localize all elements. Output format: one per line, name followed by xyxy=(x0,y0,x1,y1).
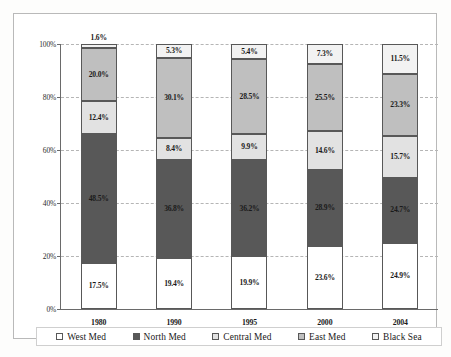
bar-segment-east-med-1995[interactable]: 28.5% xyxy=(231,59,267,135)
bar-segment-west-med-2000[interactable]: 23.6% xyxy=(307,246,343,309)
bar-segment-black-sea-2000[interactable]: 7.3% xyxy=(307,44,343,63)
legend-item-north-med[interactable]: North Med xyxy=(133,332,186,342)
bar-segment-east-med-2004[interactable]: 23.3% xyxy=(382,74,418,136)
legend-swatch-west-med xyxy=(56,333,63,340)
bar-segment-value-label: 8.4% xyxy=(166,145,182,153)
bar-segment-value-label: 5.4% xyxy=(241,48,257,56)
x-axis-tick-label-1990: 1990 xyxy=(166,318,181,327)
legend-item-west-med[interactable]: West Med xyxy=(56,332,106,342)
bar-segment-black-sea-1990[interactable]: 5.3% xyxy=(156,44,192,58)
plot-area: 0%20%40%60%80%100% 17.5%48.5%12.4%20.0%1… xyxy=(60,44,438,310)
bar-segment-value-label: 36.8% xyxy=(164,205,184,213)
bar-segment-central-med-1995[interactable]: 9.9% xyxy=(231,134,267,160)
bar-stack-2000[interactable]: 23.6%28.9%14.6%25.5%7.3% xyxy=(307,44,343,309)
legend-item-label: West Med xyxy=(67,332,106,342)
bar-segment-value-label: 15.7% xyxy=(390,153,410,161)
x-axis-tick-label-1995: 1995 xyxy=(242,318,257,327)
bar-segment-west-med-1980[interactable]: 17.5% xyxy=(81,263,117,309)
bar-stack-1980[interactable]: 17.5%48.5%12.4%20.0%1.6% xyxy=(81,44,117,309)
bar-segment-value-label: 20.0% xyxy=(89,71,109,79)
bar-segment-north-med-1995[interactable]: 36.2% xyxy=(231,160,267,256)
chart-legend: West MedNorth MedCentral MedEast MedBlac… xyxy=(36,327,442,346)
legend-item-label: East Med xyxy=(309,332,345,342)
bar-segment-value-label: 9.9% xyxy=(241,143,257,151)
bar-stack-2004[interactable]: 24.9%24.7%15.7%23.3%11.5% xyxy=(382,44,418,309)
legend-item-label: Black Sea xyxy=(383,332,422,342)
bar-segment-west-med-2004[interactable]: 24.9% xyxy=(382,243,418,309)
bar-segment-central-med-2004[interactable]: 15.7% xyxy=(382,136,418,178)
bar-segment-north-med-1990[interactable]: 36.8% xyxy=(156,160,192,258)
bar-segment-black-sea-1980[interactable]: 1.6% xyxy=(81,44,117,48)
bar-segment-value-label: 23.3% xyxy=(390,101,410,109)
legend-item-label: Central Med xyxy=(223,332,271,342)
bar-segment-east-med-1980[interactable]: 20.0% xyxy=(81,48,117,101)
bar-segment-central-med-1990[interactable]: 8.4% xyxy=(156,138,192,160)
bar-stack-1995[interactable]: 19.9%36.2%9.9%28.5%5.4% xyxy=(231,44,267,309)
bar-segment-value-label: 25.5% xyxy=(315,94,335,102)
bar-segment-value-label: 24.9% xyxy=(390,272,410,280)
bar-segment-value-label: 1.6% xyxy=(91,34,107,42)
bars-layer: 17.5%48.5%12.4%20.0%1.6%198019.4%36.8%8.… xyxy=(61,44,438,309)
bar-segment-value-label: 48.5% xyxy=(89,195,109,203)
bar-segment-value-label: 19.4% xyxy=(164,280,184,288)
x-axis-tick-label-2000: 2000 xyxy=(317,318,332,327)
bar-segment-black-sea-1995[interactable]: 5.4% xyxy=(231,44,267,58)
bar-group-1995: 19.9%36.2%9.9%28.5%5.4%1995 xyxy=(212,44,287,309)
bar-stack-1990[interactable]: 19.4%36.8%8.4%30.1%5.3% xyxy=(156,44,192,309)
bar-group-2000: 23.6%28.9%14.6%25.5%7.3%2000 xyxy=(287,44,362,309)
legend-item-label: North Med xyxy=(144,332,186,342)
bar-group-1980: 17.5%48.5%12.4%20.0%1.6%1980 xyxy=(61,44,136,309)
bar-segment-central-med-2000[interactable]: 14.6% xyxy=(307,131,343,170)
bar-segment-value-label: 30.1% xyxy=(164,94,184,102)
y-axis-tick-label: 100% xyxy=(39,40,56,49)
x-axis-tick-label-1980: 1980 xyxy=(91,318,106,327)
legend-item-black-sea[interactable]: Black Sea xyxy=(372,332,422,342)
figure-frame: 0%20%40%60%80%100% 17.5%48.5%12.4%20.0%1… xyxy=(13,13,437,339)
y-axis-tick-label: 0% xyxy=(46,305,56,314)
bar-segment-value-label: 7.3% xyxy=(317,50,333,58)
bar-segment-east-med-1990[interactable]: 30.1% xyxy=(156,58,192,138)
bar-segment-value-label: 12.4% xyxy=(89,114,109,122)
bar-segment-north-med-2004[interactable]: 24.7% xyxy=(382,178,418,243)
y-axis-tick-label: 80% xyxy=(43,93,56,102)
bar-segment-value-label: 28.9% xyxy=(315,204,335,212)
legend-swatch-east-med xyxy=(298,333,305,340)
bar-segment-value-label: 17.5% xyxy=(89,282,109,290)
bar-segment-value-label: 36.2% xyxy=(240,205,260,213)
bar-group-2004: 24.9%24.7%15.7%23.3%11.5%2004 xyxy=(363,44,438,309)
bar-segment-value-label: 24.7% xyxy=(390,206,410,214)
x-axis-tick-label-2004: 2004 xyxy=(393,318,408,327)
bar-segment-value-label: 23.6% xyxy=(315,274,335,282)
bar-segment-black-sea-2004[interactable]: 11.5% xyxy=(382,44,418,74)
legend-swatch-central-med xyxy=(212,333,219,340)
bar-segment-central-med-1980[interactable]: 12.4% xyxy=(81,101,117,134)
bar-segment-value-label: 19.9% xyxy=(240,279,260,287)
bar-segment-east-med-2000[interactable]: 25.5% xyxy=(307,64,343,132)
bar-segment-west-med-1990[interactable]: 19.4% xyxy=(156,258,192,309)
y-axis-tick-label: 60% xyxy=(43,146,56,155)
bar-segment-value-label: 28.5% xyxy=(240,93,260,101)
y-axis-tick-mark xyxy=(57,309,61,310)
bar-segment-value-label: 14.6% xyxy=(315,147,335,155)
legend-item-east-med[interactable]: East Med xyxy=(298,332,345,342)
legend-swatch-north-med xyxy=(133,333,140,340)
y-axis-tick-label: 20% xyxy=(43,252,56,261)
bar-segment-west-med-1995[interactable]: 19.9% xyxy=(231,256,267,309)
legend-item-central-med[interactable]: Central Med xyxy=(212,332,271,342)
bar-segment-value-label: 5.3% xyxy=(166,47,182,55)
bar-segment-value-label: 11.5% xyxy=(391,55,410,63)
legend-swatch-black-sea xyxy=(372,333,379,340)
y-axis-tick-label: 40% xyxy=(43,199,56,208)
bar-segment-north-med-1980[interactable]: 48.5% xyxy=(81,134,117,263)
stacked-bar-chart: 0%20%40%60%80%100% 17.5%48.5%12.4%20.0%1… xyxy=(0,0,451,357)
bar-segment-north-med-2000[interactable]: 28.9% xyxy=(307,170,343,247)
bar-group-1990: 19.4%36.8%8.4%30.1%5.3%1990 xyxy=(136,44,211,309)
